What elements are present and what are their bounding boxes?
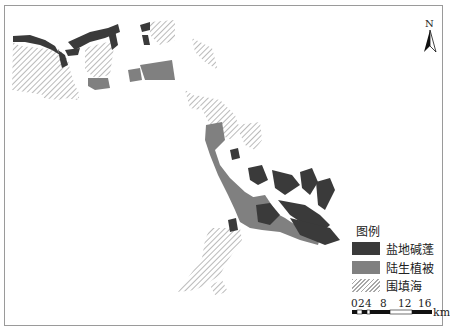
- suaeda-patch: [230, 148, 240, 160]
- suaeda-patch: [140, 22, 150, 32]
- scale-tick-label: 12: [398, 297, 411, 309]
- legend-label: 盐地碱蓬: [386, 240, 434, 257]
- reclamation-area-north-mid: [85, 40, 115, 78]
- scale-tick-label: 2: [358, 297, 365, 309]
- scale-segment: [412, 310, 432, 314]
- suaeda-patch: [300, 168, 318, 195]
- scale-bar: [352, 310, 432, 314]
- legend-label: 围填海: [386, 277, 422, 294]
- reclamation-area-south: [178, 228, 242, 292]
- north-arrow-icon: [424, 30, 436, 52]
- gray-fill-swatch-icon: [352, 261, 380, 274]
- vegetation-patch: [88, 78, 110, 90]
- vegetation-patch: [140, 60, 175, 80]
- legend-label: 陆生植被: [386, 259, 434, 276]
- north-arrow-label: N: [425, 18, 434, 29]
- scale-tick-label: 0: [351, 297, 358, 309]
- dark-fill-swatch-icon: [352, 242, 380, 255]
- suaeda-patch: [248, 165, 268, 185]
- hatched-swatch-icon: [352, 279, 380, 292]
- reclamation-area-river: [236, 122, 262, 150]
- scale-segment: [370, 310, 390, 314]
- scale-segment: [362, 310, 367, 314]
- vegetation-patch: [128, 68, 142, 82]
- reclamation-areas: [12, 20, 262, 295]
- legend-item-suaeda: 盐地碱蓬: [352, 240, 434, 256]
- reclamation-area-south-east: [210, 280, 228, 295]
- scale-segment: [352, 310, 357, 314]
- legend-item-vegetation: 陆生植被: [352, 259, 434, 275]
- suaeda-patch: [272, 170, 300, 195]
- scale-tick-label: 8: [380, 297, 387, 309]
- suaeda-patch: [142, 35, 150, 45]
- suaeda-patch: [316, 178, 335, 210]
- reclamation-area-north-east: [150, 20, 175, 45]
- suaeda-patch: [65, 48, 80, 56]
- scale-segment: [367, 310, 370, 314]
- scale-tick-label: 16: [418, 297, 431, 309]
- scale-segment: [357, 310, 362, 314]
- reclamation-area-mid-north: [192, 38, 218, 70]
- legend-title: 图例: [356, 222, 380, 239]
- scale-tick-label: 4: [365, 297, 372, 309]
- scale-segment: [390, 310, 412, 314]
- suaeda-areas: [13, 22, 340, 245]
- vegetation-areas: [88, 60, 320, 245]
- legend-item-reclamation: 围填海: [352, 277, 422, 293]
- scale-unit: km: [433, 306, 450, 319]
